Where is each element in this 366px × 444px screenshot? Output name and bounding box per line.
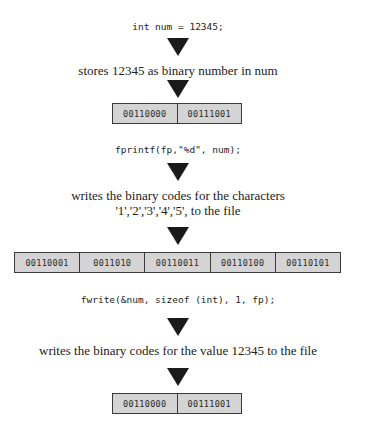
down-arrow-icon — [167, 163, 189, 181]
description-characters-line2: '1','2','3','4','5', to the file — [0, 203, 356, 218]
down-arrow-icon — [167, 318, 189, 336]
description-stores: stores 12345 as binary number in num — [0, 63, 356, 78]
code-fprintf: fprintf(fp,"%d", num); — [0, 144, 356, 155]
memory-cell: 00111001 — [178, 394, 242, 413]
code-int-declaration: int num = 12345; — [0, 21, 356, 32]
memory-cell: 00110011 — [145, 253, 210, 272]
memory-cell: 00110000 — [113, 104, 178, 123]
memory-cell: 00111001 — [178, 104, 242, 123]
down-arrow-icon — [167, 38, 189, 56]
memory-cell: 00110100 — [211, 253, 276, 272]
memory-box-num: 00110000 00111001 — [112, 103, 242, 124]
memory-box-binary-file: 00110000 00111001 — [112, 393, 242, 414]
memory-cell: 00110000 — [113, 394, 178, 413]
description-characters-line1: writes the binary codes for the characte… — [0, 188, 356, 203]
down-arrow-icon — [167, 80, 189, 98]
code-fwrite: fwrite(&num, sizeof (int), 1, fp); — [0, 294, 356, 305]
memory-box-text-file: 00110001 0011010 00110011 00110100 00110… — [14, 252, 341, 273]
memory-cell: 00110001 — [15, 253, 80, 272]
description-value: writes the binary codes for the value 12… — [0, 343, 356, 358]
memory-cell: 0011010 — [80, 253, 145, 272]
memory-cell: 00110101 — [276, 253, 340, 272]
down-arrow-icon — [167, 227, 189, 245]
down-arrow-icon — [167, 368, 189, 386]
